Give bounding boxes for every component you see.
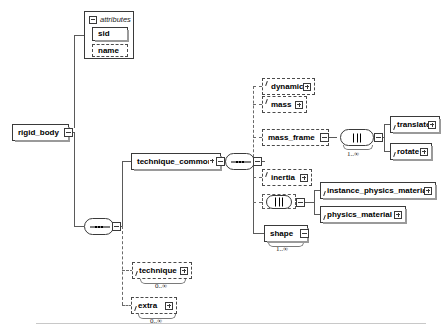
mass-frame-choice-compositor[interactable]: [340, 129, 374, 146]
attribute-marker-icon-extra: [134, 306, 138, 311]
line-rootseq-branch-up: [122, 161, 123, 227]
attribute-node-sid[interactable]: sid: [92, 27, 128, 41]
expand-plus-icon-instance-physics-material[interactable]: [424, 187, 432, 195]
line-rootseq-branch-down: [122, 226, 123, 305]
attribute-marker-icon-translate: [393, 125, 397, 130]
technique-common-stub[interactable]: [216, 157, 225, 166]
element-technique-common-label: technique_common: [132, 158, 216, 166]
attribute-sid-label: sid: [93, 30, 113, 38]
element-mass-frame[interactable]: mass_frame: [262, 129, 329, 146]
cardinality-technique: 0..∞: [155, 282, 167, 290]
choice-bars-icon: [353, 133, 361, 142]
technique-common-sequence-compositor[interactable]: [225, 153, 255, 170]
line-material-spine: [314, 190, 315, 215]
technique-common-sequence-stub[interactable]: [253, 157, 262, 166]
expand-plus-icon-physics-material[interactable]: [394, 211, 402, 219]
cardinality-mass-frame-children: 1..∞: [347, 150, 359, 158]
line-to-mass: [253, 104, 262, 105]
cardinality-extra: 0..∞: [150, 317, 162, 325]
schema-diagram-canvas: attributes sid name rigid_body technique…: [0, 0, 444, 336]
element-physics-material-label: physics_material: [321, 211, 395, 219]
element-extra[interactable]: extra: [131, 297, 177, 314]
element-translate-label: translate: [391, 121, 433, 129]
page-divider-rule: [36, 323, 426, 324]
line-massframe-choice-spine: [384, 124, 385, 152]
attributes-panel-header: attributes: [89, 15, 131, 24]
element-dynamic-label: dynamic: [263, 83, 306, 91]
collapse-minus-icon[interactable]: [89, 16, 97, 24]
element-technique-label: technique: [133, 267, 180, 275]
element-rigid-body-label: rigid_body: [13, 129, 62, 137]
root-sequence-stub[interactable]: [112, 222, 121, 231]
material-choice-stub[interactable]: [296, 198, 305, 207]
attributes-panel: attributes sid name: [84, 11, 134, 59]
attribute-marker-icon-physics-material: [323, 215, 327, 220]
element-technique-common[interactable]: technique_common: [131, 153, 221, 170]
expand-plus-icon-dynamic[interactable]: [303, 83, 311, 91]
element-dynamic[interactable]: dynamic: [262, 78, 315, 95]
element-rotate[interactable]: rotate: [390, 143, 432, 160]
line-to-shape: [253, 233, 264, 234]
line-to-massframe: [253, 137, 262, 138]
root-sequence-compositor[interactable]: [84, 218, 114, 235]
attribute-marker-icon-dynamic: [265, 81, 269, 86]
attribute-marker-icon-mass: [265, 99, 269, 104]
line-massframe-to-choice: [329, 137, 337, 138]
expand-plus-icon-extra[interactable]: [165, 302, 173, 310]
element-mass[interactable]: mass: [262, 96, 307, 113]
attributes-panel-label: attributes: [100, 15, 131, 24]
line-techseq-spine-up: [253, 86, 254, 162]
expand-plus-icon-technique[interactable]: [180, 267, 188, 275]
expand-plus-icon-rotate[interactable]: [420, 148, 428, 156]
line-spine-down-to-sequence: [74, 132, 75, 226]
sequence-dots-icon-2: [236, 161, 244, 163]
line-techseq-spine-down: [253, 161, 254, 233]
expand-plus-icon-mass[interactable]: [295, 101, 303, 109]
attribute-marker-icon-rotate: [393, 152, 397, 157]
line-to-material-choice: [253, 202, 262, 203]
attribute-marker-icon-inertia: [265, 172, 269, 177]
attribute-marker-icon-instance-physics-material: [323, 191, 327, 196]
line-spine-to-root-sequence: [74, 226, 84, 227]
expand-plus-icon-translate[interactable]: [428, 121, 436, 129]
element-shape-label: shape: [265, 230, 296, 238]
choice-bars-icon-2: [275, 198, 283, 207]
element-instance-physics-material[interactable]: instance_physics_material: [320, 182, 436, 199]
expand-plus-icon-inertia[interactable]: [300, 174, 308, 182]
element-technique[interactable]: technique: [132, 262, 192, 279]
material-choice-compositor[interactable]: [266, 195, 292, 209]
cardinality-shape: 1..∞: [276, 245, 288, 253]
shape-stub[interactable]: [300, 229, 309, 238]
line-rigidbody-spine: [74, 35, 75, 128]
element-mass-frame-label: mass_frame: [263, 134, 318, 142]
sequence-dots-icon: [95, 226, 103, 228]
line-to-dynamic: [253, 86, 262, 87]
element-inertia[interactable]: inertia: [262, 169, 312, 186]
element-rigid-body[interactable]: rigid_body: [12, 124, 69, 141]
attribute-node-name[interactable]: name: [92, 44, 128, 57]
rigid-body-expand-stub[interactable]: [64, 128, 73, 137]
mass-frame-choice-stub[interactable]: [374, 133, 383, 142]
element-physics-material[interactable]: physics_material: [320, 206, 406, 223]
line-to-inertia: [253, 177, 262, 178]
attribute-name-label: name: [93, 47, 122, 55]
line-spine-to-attributes: [74, 35, 84, 36]
element-translate[interactable]: translate: [390, 116, 440, 133]
line-to-technique-common: [122, 161, 131, 162]
mass-frame-stub[interactable]: [320, 133, 329, 142]
attribute-marker-icon-technique: [135, 271, 139, 276]
element-instance-physics-material-label: instance_physics_material: [321, 187, 432, 195]
